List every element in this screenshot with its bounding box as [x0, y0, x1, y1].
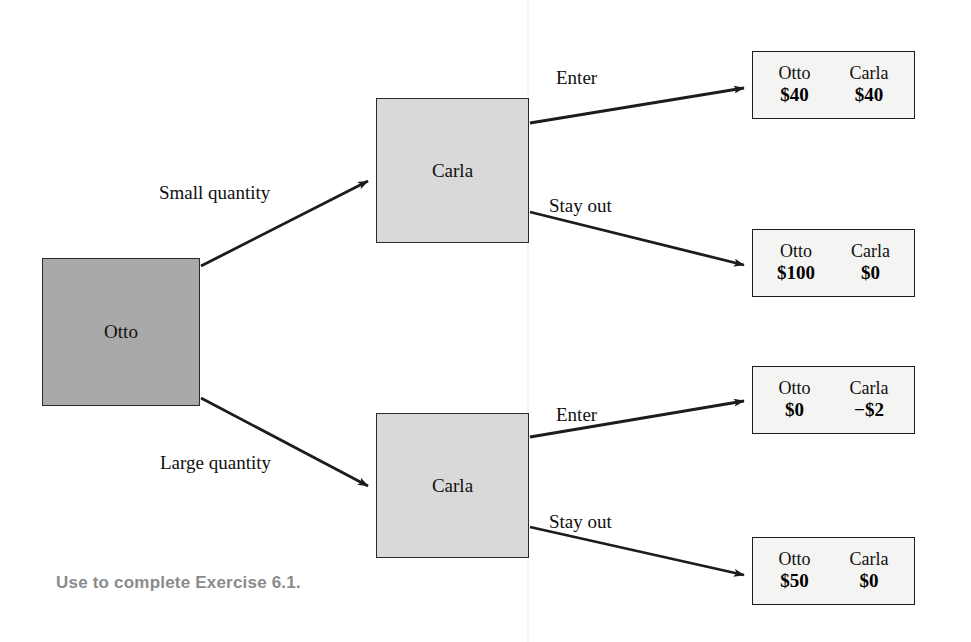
payoff-column-otto: Otto $100 — [777, 241, 815, 285]
payoff-column-carla: Carla −$2 — [850, 378, 889, 422]
edge-label-large-quantity: Large quantity — [160, 452, 271, 474]
decision-node-carla-upper: Carla — [376, 98, 529, 243]
figure-caption: Use to complete Exercise 6.1. — [56, 573, 301, 593]
payoff-value: $0 — [785, 399, 804, 421]
edge-label-enter-lower: Enter — [556, 404, 597, 426]
edge-label-small-quantity: Small quantity — [159, 182, 270, 204]
node-label-carla-upper: Carla — [432, 160, 473, 182]
payoff-column-otto: Otto $50 — [779, 549, 811, 593]
payoff-value: $0 — [860, 570, 879, 592]
payoff-column-otto: Otto $40 — [779, 63, 811, 107]
payoff-player-name: Otto — [779, 378, 811, 399]
node-label-otto: Otto — [104, 321, 138, 343]
payoff-player-name: Otto — [780, 241, 812, 262]
edge-label-stay-out-upper: Stay out — [549, 195, 612, 217]
game-tree-figure: Otto Carla Carla Small quantity Large qu… — [0, 0, 971, 642]
payoff-column-carla: Carla $0 — [850, 549, 889, 593]
edge-label-stay-out-lower: Stay out — [549, 511, 612, 533]
decision-node-carla-lower: Carla — [376, 413, 529, 558]
node-label-carla-lower: Carla — [432, 475, 473, 497]
payoff-column-carla: Carla $0 — [851, 241, 890, 285]
payoff-player-name: Carla — [850, 63, 889, 84]
edge-stay-out-lower — [530, 527, 744, 575]
payoff-value: $50 — [780, 570, 809, 592]
payoff-player-name: Carla — [850, 549, 889, 570]
decision-node-otto: Otto — [42, 258, 200, 406]
payoff-value: $100 — [777, 262, 815, 284]
payoff-column-otto: Otto $0 — [779, 378, 811, 422]
edge-enter-upper — [530, 88, 744, 123]
edge-label-enter-upper: Enter — [556, 67, 597, 89]
payoff-box-small-enter: Otto $40 Carla $40 — [752, 51, 915, 119]
payoff-box-small-stayout: Otto $100 Carla $0 — [752, 229, 915, 297]
payoff-box-large-enter: Otto $0 Carla −$2 — [752, 366, 915, 434]
payoff-column-carla: Carla $40 — [850, 63, 889, 107]
edge-stay-out-upper — [530, 212, 744, 265]
payoff-player-name: Otto — [779, 549, 811, 570]
payoff-player-name: Carla — [851, 241, 890, 262]
payoff-box-large-stayout: Otto $50 Carla $0 — [752, 537, 915, 605]
payoff-value: $0 — [861, 262, 880, 284]
payoff-player-name: Carla — [850, 378, 889, 399]
payoff-value: $40 — [855, 84, 884, 106]
payoff-value: $40 — [780, 84, 809, 106]
payoff-player-name: Otto — [779, 63, 811, 84]
payoff-value: −$2 — [854, 399, 884, 421]
